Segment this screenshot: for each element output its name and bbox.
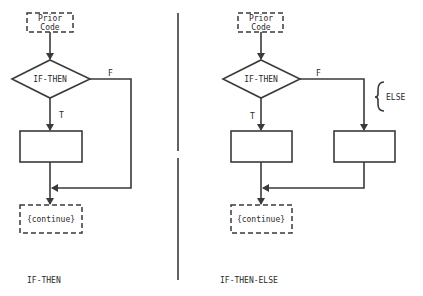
false-branch-line bbox=[300, 79, 364, 130]
if-then-else-diagram: Prior Code IF-THEN F ELSE T {continue} I… bbox=[220, 13, 405, 285]
then-process-box bbox=[231, 131, 292, 162]
true-label: T bbox=[59, 111, 64, 120]
flowchart-canvas: Prior Code IF-THEN F T {continue} IF-THE… bbox=[0, 0, 423, 296]
decision-label: IF-THEN bbox=[33, 75, 67, 84]
diagram-caption: IF-THEN-ELSE bbox=[220, 276, 278, 285]
continue-box: {continue} bbox=[231, 205, 292, 233]
prior-code-line1: Prior bbox=[249, 14, 273, 23]
else-brace: ELSE bbox=[375, 82, 405, 111]
decision-diamond: IF-THEN bbox=[12, 60, 90, 98]
diagram-caption: IF-THEN bbox=[27, 276, 61, 285]
else-process-box bbox=[334, 131, 395, 162]
prior-code-line1: Prior bbox=[38, 14, 62, 23]
else-label: ELSE bbox=[386, 93, 405, 102]
decision-diamond: IF-THEN bbox=[223, 60, 300, 98]
continue-label: {continue} bbox=[27, 215, 75, 224]
prior-code-box: Prior Code bbox=[27, 13, 73, 32]
false-label: F bbox=[108, 69, 113, 78]
continue-box: {continue} bbox=[20, 205, 82, 233]
true-label: T bbox=[250, 112, 255, 121]
false-label: F bbox=[316, 69, 321, 78]
prior-code-box: Prior Code bbox=[238, 13, 283, 32]
then-process-box bbox=[20, 131, 82, 162]
decision-label: IF-THEN bbox=[244, 75, 278, 84]
false-branch-line bbox=[52, 79, 131, 188]
else-merge-line bbox=[263, 162, 364, 188]
prior-code-line2: Code bbox=[251, 23, 270, 32]
continue-label: {continue} bbox=[237, 215, 285, 224]
if-then-diagram: Prior Code IF-THEN F T {continue} IF-THE… bbox=[12, 13, 131, 285]
prior-code-line2: Code bbox=[40, 23, 59, 32]
brace-icon bbox=[375, 82, 384, 111]
